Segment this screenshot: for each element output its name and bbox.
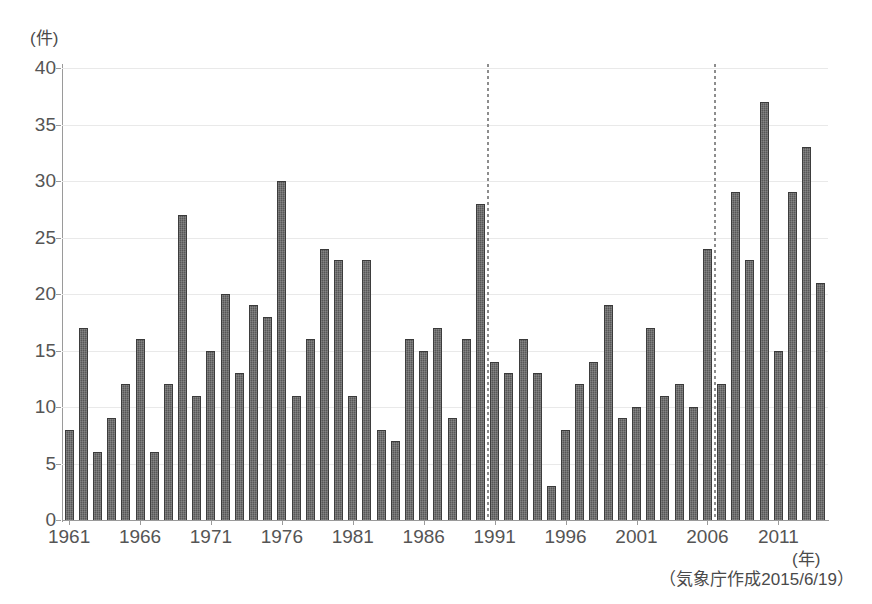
bar-1992 bbox=[504, 373, 513, 520]
y-tick-label-10: 10 bbox=[35, 396, 56, 418]
bar-1974 bbox=[249, 305, 258, 520]
x-tick-mark-1991 bbox=[495, 520, 496, 525]
bar-1981 bbox=[348, 396, 357, 520]
x-tick-label-1976: 1976 bbox=[261, 526, 303, 548]
bar-1983 bbox=[377, 430, 386, 520]
x-tick-mark-1976 bbox=[282, 520, 283, 525]
y-tick-mark-30 bbox=[56, 181, 61, 182]
bar-1963 bbox=[93, 452, 102, 520]
x-tick-label-1981: 1981 bbox=[332, 526, 374, 548]
bar-1975 bbox=[263, 317, 272, 520]
y-tick-mark-40 bbox=[56, 68, 61, 69]
bar-1977 bbox=[292, 396, 301, 520]
bar-1973 bbox=[235, 373, 244, 520]
x-axis-line bbox=[62, 520, 829, 521]
bar-2010 bbox=[760, 102, 769, 520]
bar-1982 bbox=[362, 260, 371, 520]
bar-1967 bbox=[150, 452, 159, 520]
bar-2009 bbox=[745, 260, 754, 520]
bar-1997 bbox=[575, 384, 584, 520]
bar-1979 bbox=[320, 249, 329, 520]
y-tick-label-15: 15 bbox=[35, 340, 56, 362]
bar-1985 bbox=[405, 339, 414, 520]
bar-1998 bbox=[589, 362, 598, 520]
bar-2011 bbox=[774, 351, 783, 521]
x-tick-label-2001: 2001 bbox=[615, 526, 657, 548]
source-credit: （気象庁作成2015/6/19） bbox=[659, 565, 854, 590]
bar-1962 bbox=[79, 328, 88, 520]
x-tick-mark-1971 bbox=[211, 520, 212, 525]
bar-1972 bbox=[221, 294, 230, 520]
y-tick-mark-0 bbox=[56, 520, 61, 521]
y-tick-mark-35 bbox=[56, 125, 61, 126]
x-tick-mark-1966 bbox=[140, 520, 141, 525]
y-tick-mark-20 bbox=[56, 294, 61, 295]
x-tick-label-1971: 1971 bbox=[190, 526, 232, 548]
bar-1996 bbox=[561, 430, 570, 520]
bar-1969 bbox=[178, 215, 187, 520]
bar-1995 bbox=[547, 486, 556, 520]
bar-1989 bbox=[462, 339, 471, 520]
x-tick-mark-1981 bbox=[353, 520, 354, 525]
bar-1994 bbox=[533, 373, 542, 520]
bar-1987 bbox=[433, 328, 442, 520]
bar-1980 bbox=[334, 260, 343, 520]
bar-1961 bbox=[65, 430, 74, 520]
y-tick-label-30: 30 bbox=[35, 170, 56, 192]
bar-1999 bbox=[604, 305, 613, 520]
bar-1964 bbox=[107, 418, 116, 520]
x-tick-mark-2001 bbox=[637, 520, 638, 525]
bar-2003 bbox=[660, 396, 669, 520]
y-tick-mark-25 bbox=[56, 238, 61, 239]
x-tick-label-1991: 1991 bbox=[474, 526, 516, 548]
bar-1976 bbox=[277, 181, 286, 520]
y-tick-label-25: 25 bbox=[35, 227, 56, 249]
x-tick-label-1986: 1986 bbox=[403, 526, 445, 548]
bar-1993 bbox=[519, 339, 528, 520]
x-tick-mark-2006 bbox=[707, 520, 708, 525]
bar-2013 bbox=[802, 147, 811, 520]
bar-1988 bbox=[448, 418, 457, 520]
y-axis-unit-label: (件) bbox=[30, 24, 58, 49]
bar-1978 bbox=[306, 339, 315, 520]
y-tick-label-40: 40 bbox=[35, 57, 56, 79]
bar-1965 bbox=[121, 384, 130, 520]
period-separator-1990 bbox=[487, 64, 489, 520]
x-tick-label-2006: 2006 bbox=[686, 526, 728, 548]
bar-1968 bbox=[164, 384, 173, 520]
bar-2007 bbox=[717, 384, 726, 520]
bar-2008 bbox=[731, 192, 740, 520]
bar-2001 bbox=[632, 407, 641, 520]
plot-area bbox=[62, 68, 828, 520]
bar-2004 bbox=[675, 384, 684, 520]
bar-1966 bbox=[136, 339, 145, 520]
x-tick-label-1961: 1961 bbox=[48, 526, 90, 548]
y-tick-label-20: 20 bbox=[35, 283, 56, 305]
bar-2014 bbox=[816, 283, 825, 520]
bar-2002 bbox=[646, 328, 655, 520]
y-tick-mark-15 bbox=[56, 351, 61, 352]
y-tick-mark-5 bbox=[56, 464, 61, 465]
bar-2006 bbox=[703, 249, 712, 520]
bar-1971 bbox=[206, 351, 215, 521]
bar-1991 bbox=[490, 362, 499, 520]
bar-2000 bbox=[618, 418, 627, 520]
y-tick-mark-10 bbox=[56, 407, 61, 408]
bar-2005 bbox=[689, 407, 698, 520]
bar-2012 bbox=[788, 192, 797, 520]
chart-root: (件) 0510152025303540 1961196619711976198… bbox=[0, 0, 872, 604]
x-tick-label-1966: 1966 bbox=[119, 526, 161, 548]
y-axis-tick-labels: 0510152025303540 bbox=[18, 68, 56, 520]
x-tick-mark-1996 bbox=[566, 520, 567, 525]
x-tick-mark-1961 bbox=[69, 520, 70, 525]
bar-1986 bbox=[419, 351, 428, 521]
period-separator-2006 bbox=[714, 64, 716, 520]
bar-1970 bbox=[192, 396, 201, 520]
y-tick-label-5: 5 bbox=[45, 453, 56, 475]
bar-1990 bbox=[476, 204, 485, 520]
bar-1984 bbox=[391, 441, 400, 520]
x-tick-label-1996: 1996 bbox=[544, 526, 586, 548]
y-tick-label-35: 35 bbox=[35, 114, 56, 136]
x-tick-mark-1986 bbox=[424, 520, 425, 525]
x-tick-mark-2011 bbox=[778, 520, 779, 525]
